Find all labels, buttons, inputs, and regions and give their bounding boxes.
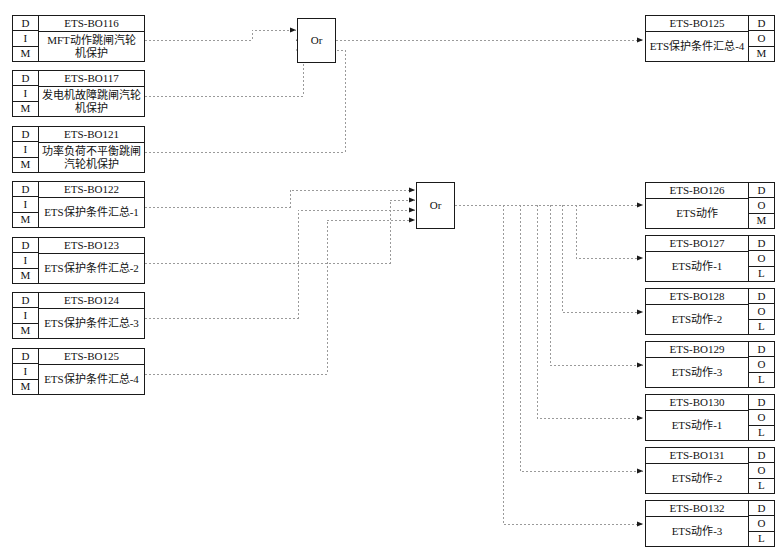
block-description: ETS动作-2 [646, 305, 748, 334]
tag-m: M [13, 323, 38, 338]
block-description: 功率负荷不平衡跳闸汽轮机保护 [39, 143, 144, 172]
block-body: ETS-BO123 ETS保护条件汇总-2 [39, 238, 144, 283]
tag-l: L [749, 266, 774, 281]
block-description: ETS动作-3 [646, 358, 748, 387]
tag-i: I [13, 307, 38, 322]
block-body: ETS-BO121 功率负荷不平衡跳闸汽轮机保护 [39, 127, 144, 172]
tag-d: D [749, 236, 774, 250]
tag-m: M [13, 46, 38, 61]
block-description: ETS动作-2 [646, 464, 748, 493]
tag-column: D I M [13, 349, 39, 394]
tag-l: L [749, 425, 774, 440]
tag-column: D I M [13, 16, 39, 61]
tag-l: L [749, 531, 774, 546]
tag-o: O [749, 462, 774, 477]
block-id: ETS-BO125 [646, 16, 748, 32]
block-id: ETS-BO124 [39, 293, 144, 309]
input-block-ets-bo116[interactable]: D I M ETS-BO116 MFT动作跳闸汽轮机保护 [12, 15, 145, 62]
block-description: ETS动作-1 [646, 411, 748, 440]
block-body: ETS-BO117 发电机故障跳闸汽轮机保护 [39, 71, 144, 116]
block-description: 发电机故障跳闸汽轮机保护 [39, 87, 144, 116]
tag-i: I [13, 252, 38, 267]
tag-column: D O L [748, 395, 774, 440]
tag-l: L [749, 319, 774, 334]
block-id: ETS-BO128 [646, 289, 748, 305]
block-description: ETS保护条件汇总-3 [39, 309, 144, 338]
tag-o: O [749, 30, 774, 45]
input-block-ets-bo125[interactable]: D I M ETS-BO125 ETS保护条件汇总-4 [12, 348, 145, 395]
output-block-ets-bo129[interactable]: ETS-BO129 ETS动作-3 D O L [645, 341, 775, 388]
block-id: ETS-BO121 [39, 127, 144, 143]
tag-column: D O L [748, 289, 774, 334]
tag-d: D [749, 342, 774, 356]
or-gate-1[interactable]: Or [297, 18, 336, 63]
block-body: ETS-BO116 MFT动作跳闸汽轮机保护 [39, 16, 144, 61]
tag-d: D [13, 127, 38, 141]
tag-o: O [749, 409, 774, 424]
input-block-ets-bo122[interactable]: D I M ETS-BO122 ETS保护条件汇总-1 [12, 181, 145, 228]
tag-m: M [749, 213, 774, 228]
or-gate-1-label: Or [311, 35, 323, 46]
block-body: ETS-BO125 ETS保护条件汇总-4 [646, 16, 748, 61]
tag-l: L [749, 478, 774, 493]
output-block-ets-bo128[interactable]: ETS-BO128 ETS动作-2 D O L [645, 288, 775, 335]
block-body: ETS-BO126 ETS动作 [646, 183, 748, 228]
tag-column: D I M [13, 238, 39, 283]
tag-column: D O L [748, 448, 774, 493]
tag-column: D I M [13, 293, 39, 338]
block-id: ETS-BO122 [39, 182, 144, 198]
block-body: ETS-BO125 ETS保护条件汇总-4 [39, 349, 144, 394]
tag-i: I [13, 363, 38, 378]
block-id: ETS-BO131 [646, 448, 748, 464]
output-block-ets-bo127[interactable]: ETS-BO127 ETS动作-1 D O L [645, 235, 775, 282]
tag-d: D [13, 16, 38, 30]
tag-d: D [13, 182, 38, 196]
block-id: ETS-BO125 [39, 349, 144, 365]
block-body: ETS-BO131 ETS动作-2 [646, 448, 748, 493]
tag-o: O [749, 515, 774, 530]
tag-column: D O L [748, 236, 774, 281]
tag-column: D O L [748, 501, 774, 546]
tag-column: D I M [13, 182, 39, 227]
block-body: ETS-BO128 ETS动作-2 [646, 289, 748, 334]
block-description: ETS动作-3 [646, 517, 748, 546]
tag-column: D O M [748, 16, 774, 61]
tag-m: M [13, 379, 38, 394]
output-block-ets-bo125[interactable]: ETS-BO125 ETS保护条件汇总-4 D O M [645, 15, 775, 62]
tag-d: D [749, 183, 774, 197]
input-block-ets-bo117[interactable]: D I M ETS-BO117 发电机故障跳闸汽轮机保护 [12, 70, 145, 117]
output-block-ets-bo131[interactable]: ETS-BO131 ETS动作-2 D O L [645, 447, 775, 494]
tag-i: I [13, 30, 38, 45]
block-body: ETS-BO129 ETS动作-3 [646, 342, 748, 387]
output-block-ets-bo130[interactable]: ETS-BO130 ETS动作-1 D O L [645, 394, 775, 441]
block-id: ETS-BO123 [39, 238, 144, 254]
tag-d: D [749, 289, 774, 303]
block-description: ETS保护条件汇总-4 [39, 365, 144, 394]
tag-column: D I M [13, 127, 39, 172]
block-body: ETS-BO130 ETS动作-1 [646, 395, 748, 440]
block-id: ETS-BO130 [646, 395, 748, 411]
tag-l: L [749, 372, 774, 387]
tag-m: M [13, 157, 38, 172]
output-block-ets-bo132[interactable]: ETS-BO132 ETS动作-3 D O L [645, 500, 775, 547]
output-block-ets-bo126[interactable]: ETS-BO126 ETS动作 D O M [645, 182, 775, 229]
tag-column: D I M [13, 71, 39, 116]
tag-d: D [749, 395, 774, 409]
tag-d: D [749, 16, 774, 30]
block-body: ETS-BO127 ETS动作-1 [646, 236, 748, 281]
tag-d: D [749, 448, 774, 462]
input-block-ets-bo121[interactable]: D I M ETS-BO121 功率负荷不平衡跳闸汽轮机保护 [12, 126, 145, 173]
logic-diagram-canvas: D I M ETS-BO116 MFT动作跳闸汽轮机保护 D I M ETS-B… [0, 0, 782, 559]
tag-d: D [13, 238, 38, 252]
tag-o: O [749, 197, 774, 212]
block-id: ETS-BO117 [39, 71, 144, 87]
input-block-ets-bo123[interactable]: D I M ETS-BO123 ETS保护条件汇总-2 [12, 237, 145, 284]
block-id: ETS-BO127 [646, 236, 748, 252]
block-description: MFT动作跳闸汽轮机保护 [39, 32, 144, 61]
block-description: ETS保护条件汇总-1 [39, 198, 144, 227]
input-block-ets-bo124[interactable]: D I M ETS-BO124 ETS保护条件汇总-3 [12, 292, 145, 339]
tag-d: D [13, 71, 38, 85]
tag-m: M [749, 46, 774, 61]
block-id: ETS-BO126 [646, 183, 748, 199]
or-gate-2[interactable]: Or [416, 182, 455, 229]
